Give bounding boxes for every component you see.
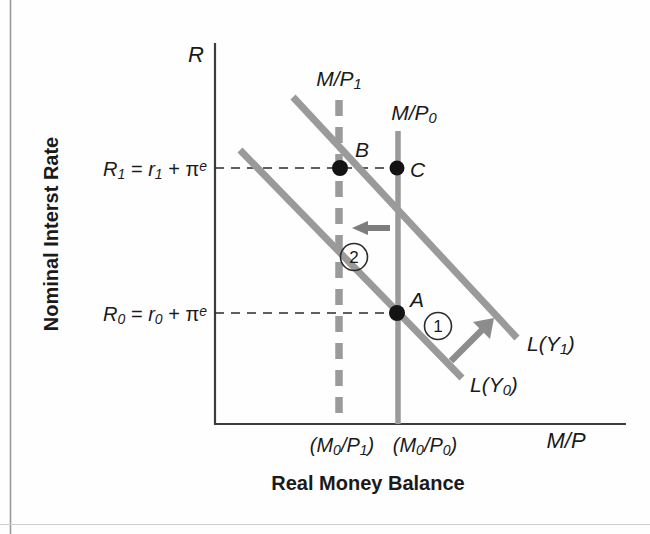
step-number-2: 2 — [349, 248, 358, 267]
ms1-sub: 1 — [354, 76, 362, 92]
y-axis-symbol: R — [188, 42, 204, 67]
arrow-step-1 — [451, 318, 494, 361]
y-tick-R0-plus: + — [163, 303, 186, 325]
y-tick-label-R0: R0 = r0 + πe — [103, 303, 207, 327]
y-tick-R1-plus: + — [163, 158, 186, 180]
figure-root: 2 1 R M/P Nominal Interst Rate Real Mone… — [0, 0, 650, 534]
y-tick-R1-R: R — [103, 158, 117, 180]
curve-LY1 — [293, 97, 517, 338]
y-tick-R0-pi: π — [185, 303, 199, 325]
x-axis-title: Real Money Balance — [271, 472, 464, 494]
x-tick-MP0-tail: ) — [449, 434, 458, 456]
y-tick-label-R1: R1 = r1 + πe — [103, 158, 207, 182]
x-tick-MP1-mid: /P — [339, 434, 361, 456]
x-axis-symbol: M/P — [546, 428, 585, 453]
x-tick-MP1-lead: (M — [310, 434, 334, 456]
y-tick-R0-sub2: 0 — [155, 311, 163, 327]
point-B — [332, 160, 348, 176]
x-tick-MP1-tail: ) — [366, 434, 375, 456]
x-tick-MP0-sub2: 0 — [443, 442, 451, 458]
y-tick-R0-sub: 0 — [118, 311, 126, 327]
x-tick-MP0-sub1: 0 — [416, 442, 424, 458]
y-tick-R0-eq: = — [125, 303, 148, 325]
money-supply-1-label: M/P1 — [316, 67, 362, 92]
step-number-1: 1 — [433, 317, 442, 336]
ms0-lead: M/P — [391, 101, 428, 124]
y-tick-R0-R: R — [103, 303, 117, 325]
point-A — [389, 305, 405, 321]
point-label-B: B — [355, 138, 369, 161]
y-tick-R1-sup: e — [199, 158, 207, 174]
ms1-lead: M/P — [316, 67, 353, 90]
ly1-sub: 1 — [560, 341, 568, 357]
y-axis-title: Nominal Interst Rate — [40, 137, 62, 331]
y-tick-R0-sup: e — [199, 303, 207, 319]
y-tick-R1-pi: π — [185, 158, 199, 180]
x-tick-MP0-mid: /P — [422, 434, 444, 456]
x-tick-MP1-sub2: 1 — [360, 442, 368, 458]
curve-LY1-label: L(Y1) — [527, 332, 575, 357]
x-tick-label-MP0: (M0/P0) — [393, 434, 458, 458]
point-label-C: C — [410, 158, 426, 181]
ly0-lead: L(Y — [470, 373, 505, 396]
point-C — [390, 161, 405, 176]
y-tick-R1-sub: 1 — [118, 166, 126, 182]
y-tick-R1-eq: = — [125, 158, 148, 180]
curve-LY0-label: L(Y0) — [470, 373, 518, 398]
x-tick-label-MP1: (M0/P1) — [310, 434, 375, 458]
y-tick-R1-sub2: 1 — [155, 166, 163, 182]
ms0-sub: 0 — [429, 110, 438, 126]
point-label-A: A — [408, 288, 424, 311]
money-market-diagram: 2 1 R M/P Nominal Interst Rate Real Mone… — [0, 0, 650, 534]
equilibrium-points — [332, 160, 405, 321]
x-tick-MP1-sub1: 0 — [333, 442, 341, 458]
x-tick-MP0-lead: (M — [393, 434, 417, 456]
ly1-lead: L(Y — [527, 332, 562, 355]
step-number-1-group: 1 — [425, 313, 452, 340]
arrow-step-2 — [352, 221, 390, 235]
money-supply-0-label: M/P0 — [391, 101, 437, 126]
